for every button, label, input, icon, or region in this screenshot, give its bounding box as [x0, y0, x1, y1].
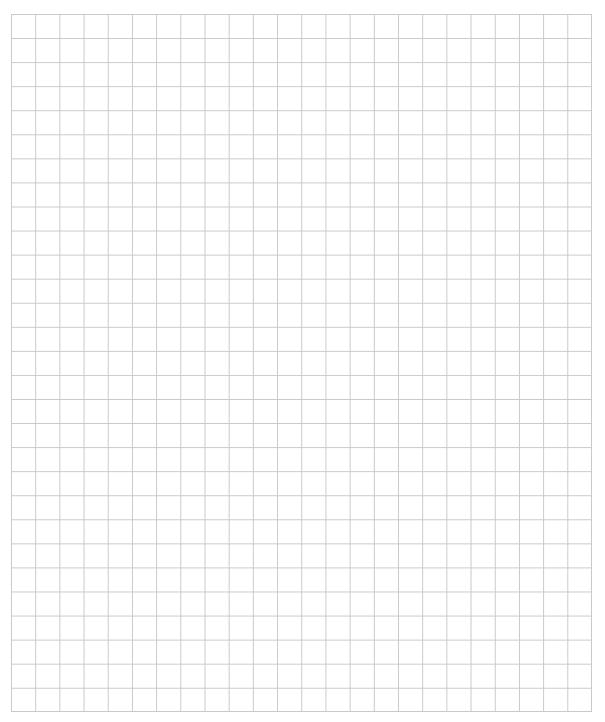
grid-paper-page [0, 0, 605, 722]
grid-right-edge-line [591, 14, 592, 712]
grid-bottom-edge-line [11, 711, 592, 712]
grid-sheet [11, 14, 592, 712]
